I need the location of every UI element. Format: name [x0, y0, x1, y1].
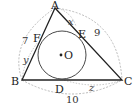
label-x: x: [68, 16, 74, 27]
arc-bc-length: [22, 80, 122, 94]
center-point: [60, 54, 63, 57]
label-side-ac: 9: [94, 27, 100, 38]
label-o: O: [64, 49, 73, 62]
label-z: z: [88, 82, 95, 93]
label-side-ab: 7: [22, 35, 28, 46]
label-side-bc: 10: [66, 94, 79, 105]
label-c: C: [124, 75, 132, 88]
label-y: y: [22, 54, 29, 65]
label-f: F: [33, 32, 41, 45]
label-e: E: [78, 28, 86, 41]
label-b: B: [11, 75, 19, 88]
incircle-diagram: A B C D E F O x y z 7 9 10: [0, 0, 139, 112]
label-a: A: [50, 0, 60, 12]
label-d: D: [55, 83, 64, 96]
